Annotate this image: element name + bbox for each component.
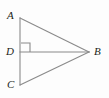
vertex-label-a: A [7, 10, 14, 21]
geometry-figure: A D C B [0, 0, 109, 98]
vertex-label-c: C [7, 79, 14, 90]
vertex-label-b: B [94, 46, 101, 57]
diagram-background [0, 0, 109, 98]
vertex-label-d: D [6, 46, 14, 57]
triangle-diagram [0, 0, 109, 98]
